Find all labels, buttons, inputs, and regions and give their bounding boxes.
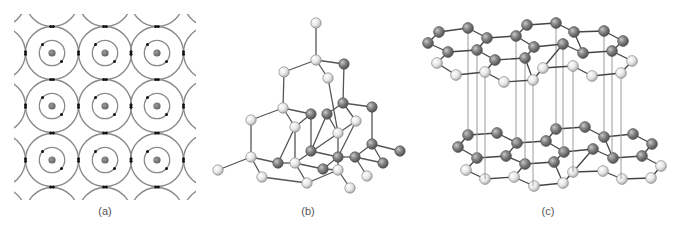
shared-electron: [102, 78, 105, 81]
shared-electron: [210, 25, 213, 28]
shared-electron: [24, 160, 27, 163]
shared-electron: [0, 132, 2, 135]
shared-electron: [154, 25, 157, 28]
shared-electron: [24, 106, 27, 109]
shared-electron: [52, 132, 55, 135]
shared-electron: [52, 186, 55, 189]
shared-electron: [130, 53, 133, 56]
outer-orbit: [184, 80, 237, 133]
dark-atom: [588, 144, 599, 155]
shared-electron: [52, 25, 55, 28]
outer-orbit: [0, 134, 26, 187]
shared-electron: [102, 25, 105, 28]
shared-electron: [102, 186, 105, 189]
electron: [146, 150, 149, 153]
light-atom: [345, 183, 355, 193]
shared-electron: [24, 211, 27, 214]
shared-electron: [182, 103, 185, 106]
shared-electron: [49, 186, 52, 189]
light-atom: [461, 165, 472, 176]
panel-b-label: (b): [301, 205, 314, 217]
shared-electron: [77, 160, 80, 163]
light-atom: [509, 172, 520, 183]
shared-electron: [154, 132, 157, 135]
dark-atom: [541, 136, 552, 147]
shared-electron: [24, 103, 27, 106]
dark-atom: [608, 153, 619, 164]
outer-orbit: [0, 188, 26, 231]
shared-electron: [157, 186, 160, 189]
dark-atom: [559, 147, 570, 158]
shared-electron: [207, 78, 210, 81]
light-atom: [246, 152, 256, 162]
light-atom: [246, 115, 256, 125]
outer-orbit: [0, 80, 26, 133]
shared-electron: [0, 186, 2, 189]
panel-a-label: (a): [98, 205, 111, 217]
light-atom: [598, 166, 609, 177]
shared-electron: [0, 78, 2, 81]
shared-electron: [210, 186, 213, 189]
shared-electron: [210, 78, 213, 81]
dark-atom: [318, 164, 328, 174]
electron: [60, 60, 63, 63]
nucleus: [48, 156, 55, 163]
shared-electron: [182, 53, 185, 56]
electron: [94, 150, 97, 153]
electron: [94, 43, 97, 46]
shared-electron: [207, 25, 210, 28]
dark-atom: [378, 158, 388, 168]
bond: [343, 64, 344, 103]
shared-electron: [49, 132, 52, 135]
light-atom: [480, 67, 491, 78]
electron: [146, 96, 149, 99]
shared-electron: [77, 211, 80, 214]
shared-electron: [77, 0, 80, 3]
shared-electron: [182, 211, 185, 214]
dark-atom: [529, 42, 540, 53]
shared-electron: [157, 132, 160, 135]
outer-orbit: [184, 27, 237, 80]
electron: [41, 43, 44, 46]
nucleus: [48, 49, 55, 56]
outer-orbit: [0, 0, 26, 27]
dark-atom: [395, 146, 405, 156]
light-atom: [568, 61, 579, 72]
shared-electron: [77, 214, 80, 217]
shared-electron: [24, 53, 27, 56]
dark-atom: [306, 109, 316, 119]
light-atom: [656, 161, 667, 172]
shared-electron: [24, 0, 27, 3]
light-atom: [257, 172, 267, 182]
light-atom: [290, 122, 300, 132]
dark-atom: [607, 46, 618, 57]
panel-b-diamond-lattice: [213, 18, 405, 193]
electron: [165, 113, 168, 116]
light-atom: [529, 181, 540, 192]
shared-electron: [207, 132, 210, 135]
nucleus: [153, 49, 160, 56]
electron: [60, 113, 63, 116]
shared-electron: [24, 157, 27, 160]
light-atom: [451, 70, 462, 81]
bond: [311, 114, 327, 151]
panel-c-graphite-layers: [423, 18, 667, 192]
light-atom: [616, 68, 627, 79]
dark-atom: [569, 27, 580, 38]
dark-atom: [333, 152, 343, 162]
outer-orbit: [131, 0, 184, 27]
shared-electron: [182, 214, 185, 217]
bond: [262, 177, 307, 183]
panel-c-label: (c): [542, 205, 555, 217]
nucleus: [101, 156, 108, 163]
nucleus: [153, 156, 160, 163]
shared-electron: [130, 160, 133, 163]
dark-atom: [618, 36, 629, 47]
shared-electron: [52, 78, 55, 81]
shared-electron: [130, 214, 133, 217]
outer-orbit: [184, 134, 237, 187]
electron: [113, 60, 116, 63]
shared-electron: [49, 78, 52, 81]
outer-orbit: [79, 0, 132, 27]
shared-electron: [130, 106, 133, 109]
